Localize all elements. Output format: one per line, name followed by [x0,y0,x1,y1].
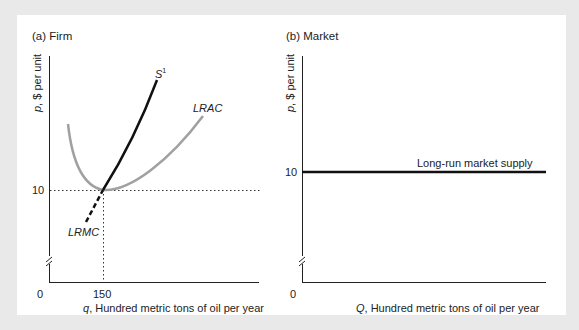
panel-a-s1-curve [103,80,157,190]
panel-a-x-tick-150: 150 [93,288,111,300]
panel-b-title: (b) Market [286,30,339,42]
panel-b-x-axis-label: Q, Hundred metric tons of oil per year [356,302,540,314]
panel-a-lrmc-label: LRMC [68,226,99,238]
panel-a-x-axis-label: q, Hundred metric tons of oil per year [83,302,264,314]
panel-a-title: (a) Firm [32,30,72,42]
panel-a-lrac-curve [68,116,203,190]
panel-a-lrmc-curve [86,190,103,222]
panel-a-s1-label: S1 [155,67,166,80]
panel-a-x-tick-0: 0 [37,288,43,300]
chart-svg: (a) Firm p, $ per unit S1 LRAC LRMC 10 0… [0,0,579,330]
panel-b-supply-label: Long-run market supply [417,157,533,169]
panel-b-y-axis-label: p, $ per unit [284,54,296,113]
panel-b-x-tick-0: 0 [290,288,296,300]
panel-a-firm: (a) Firm p, $ per unit S1 LRAC LRMC 10 0… [31,30,264,314]
panel-a-y-tick-10: 10 [32,184,44,196]
panel-a-lrac-label: LRAC [193,102,222,114]
panel-b-market: (b) Market p, $ per unit Long-run market… [284,30,546,314]
panel-a-y-axis-label: p, $ per unit [31,54,43,113]
panel-b-y-tick-10: 10 [285,166,297,178]
